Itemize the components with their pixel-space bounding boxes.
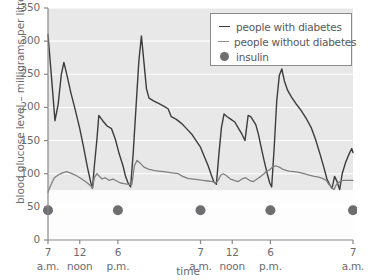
y-tick-label: 350 [10,1,40,13]
x-tick-label: 6 [98,246,138,258]
y-tick-label: 50 [10,200,40,212]
x-tick-label: 12 [60,246,100,258]
chart-legend: people with diabetes people without diab… [210,13,352,66]
legend-item-people-with-diabetes: people with diabetes [218,19,345,34]
y-tick-label: 300 [10,34,40,46]
legend-label: people with diabetes [236,21,342,33]
x-tick-label: 6 [250,246,290,258]
legend-item-insulin: insulin [218,49,345,64]
insulin-dot [196,205,206,215]
x-tick-sublabel: noon [212,260,252,272]
legend-label: insulin [236,51,269,63]
y-tick-label: 250 [10,67,40,79]
x-tick-sublabel: a.m. [333,260,368,272]
x-tick-sublabel: noon [60,260,100,272]
insulin-dot-icon [218,52,231,61]
insulin-dot [113,205,123,215]
y-tick-label: 150 [10,134,40,146]
legend-line-icon [218,26,231,28]
insulin-dot [265,205,275,215]
legend-line-icon [218,41,229,43]
y-tick-label: 100 [10,167,40,179]
x-tick-label: 12 [212,246,252,258]
x-tick-sublabel: p.m. [98,260,138,272]
legend-item-people-without-diabetes: people without diabetes [218,34,345,49]
y-tick-label: 200 [10,100,40,112]
legend-label: people without diabetes [234,36,356,48]
x-tick-sublabel: p.m. [250,260,290,272]
y-tick-label: 0 [10,233,40,245]
x-tick-label: 7 [333,246,368,258]
